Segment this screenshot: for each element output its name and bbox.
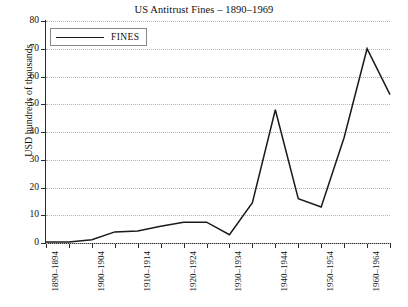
x-tick-label: 1900–1904 [96, 251, 106, 292]
y-tick-label: 70 [5, 43, 39, 53]
series-line-fines [46, 49, 390, 242]
x-tick-label: 1910–1914 [142, 251, 152, 292]
x-tick [390, 243, 391, 248]
y-tick-label: 60 [5, 71, 39, 81]
y-tick-label: 80 [5, 15, 39, 25]
legend: FINES [50, 28, 147, 46]
chart-title: US Antitrust Fines – 1890–1969 [0, 4, 408, 15]
chart-container: US Antitrust Fines – 1890–1969 USD hundr… [0, 0, 408, 307]
x-tick-label: 1940–1944 [279, 251, 289, 292]
legend-label-fines: FINES [111, 32, 139, 42]
gridline [46, 243, 390, 244]
y-tick-label: 50 [5, 98, 39, 108]
x-tick-label: 1890–1894 [50, 251, 60, 292]
y-tick-label: 30 [5, 154, 39, 164]
y-tick-label: 20 [5, 182, 39, 192]
plot-area [46, 21, 390, 243]
x-tick-label: 1960–1964 [371, 251, 381, 292]
x-tick-label: 1930–1934 [233, 251, 243, 292]
y-tick-label: 10 [5, 209, 39, 219]
y-tick-label: 40 [5, 126, 39, 136]
legend-swatch-fines [56, 37, 104, 38]
x-tick-label: 1950–1954 [325, 251, 335, 292]
y-tick-label: 0 [5, 237, 39, 247]
x-tick-label: 1920–1924 [188, 251, 198, 292]
series-layer [46, 21, 390, 243]
